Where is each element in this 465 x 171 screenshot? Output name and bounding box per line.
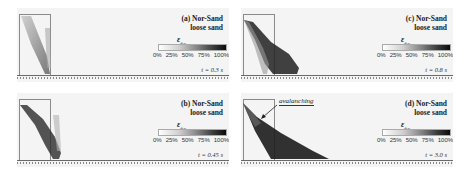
colorbar-ticks: 0% 25% 50% 75% 100% bbox=[153, 52, 229, 58]
tick-0: 0% bbox=[377, 137, 386, 143]
floor-hatch bbox=[17, 77, 229, 79]
tick-0: 0% bbox=[153, 52, 162, 58]
panel-title: (a) Nor-Sand loose sand bbox=[181, 14, 223, 32]
title-line2: loose sand bbox=[406, 23, 447, 32]
floor-line bbox=[241, 160, 453, 161]
floor-hatch bbox=[241, 162, 453, 164]
panel-b: (b) Nor-Sand loose sand εdev 0% 25% 50% … bbox=[17, 93, 229, 167]
tick-100: 100% bbox=[214, 52, 229, 58]
tick-75: 75% bbox=[422, 137, 434, 143]
title-line1: (a) Nor-Sand bbox=[181, 14, 223, 23]
tick-50: 50% bbox=[406, 137, 418, 143]
tick-100: 100% bbox=[438, 52, 453, 58]
panel-d: avalanching (d) Nor-Sand loose sand εdev… bbox=[241, 93, 453, 167]
colorbar bbox=[382, 44, 451, 51]
title-line2: loose sand bbox=[405, 108, 447, 117]
tick-25: 25% bbox=[166, 52, 178, 58]
time-label: t = 0.3 s bbox=[201, 66, 223, 73]
colorbar-ticks: 0% 25% 50% 75% 100% bbox=[377, 137, 453, 143]
floor-line bbox=[17, 75, 229, 76]
tick-25: 25% bbox=[390, 137, 402, 143]
floor-hatch bbox=[241, 77, 453, 79]
annotation-arrow bbox=[263, 105, 277, 117]
time-label: t = 0.8 s bbox=[425, 66, 447, 73]
floor-line bbox=[241, 75, 453, 76]
tick-0: 0% bbox=[153, 137, 162, 143]
colorbar-ticks: 0% 25% 50% 75% 100% bbox=[153, 137, 229, 143]
tick-25: 25% bbox=[390, 52, 402, 58]
colorbar-ticks: 0% 25% 50% 75% 100% bbox=[377, 52, 453, 58]
tick-75: 75% bbox=[198, 52, 210, 58]
colorbar bbox=[158, 129, 227, 136]
tick-25: 25% bbox=[166, 137, 178, 143]
panel-c: (c) Nor-Sand loose sand εdev 0% 25% 50% … bbox=[241, 8, 453, 82]
tick-75: 75% bbox=[198, 137, 210, 143]
title-line1: (d) Nor-Sand bbox=[405, 99, 447, 108]
panel-a: (a) Nor-Sand loose sand εdev 0% 25% 50% … bbox=[17, 8, 229, 82]
panel-title: (d) Nor-Sand loose sand bbox=[405, 99, 447, 117]
title-line2: loose sand bbox=[181, 23, 223, 32]
tick-50: 50% bbox=[182, 52, 194, 58]
time-label: t = 3.0 s bbox=[425, 151, 447, 158]
tick-50: 50% bbox=[406, 52, 418, 58]
colorbar bbox=[382, 129, 451, 136]
tick-100: 100% bbox=[214, 137, 229, 143]
title-line1: (c) Nor-Sand bbox=[406, 14, 447, 23]
avalanching-annotation: avalanching bbox=[279, 97, 314, 106]
tick-50: 50% bbox=[182, 137, 194, 143]
tick-75: 75% bbox=[422, 52, 434, 58]
colorbar bbox=[158, 44, 227, 51]
title-line1: (b) Nor-Sand bbox=[181, 99, 223, 108]
title-line2: loose sand bbox=[181, 108, 223, 117]
time-label: t = 0.45 s bbox=[198, 151, 223, 158]
tick-100: 100% bbox=[438, 137, 453, 143]
tick-0: 0% bbox=[377, 52, 386, 58]
panel-title: (b) Nor-Sand loose sand bbox=[181, 99, 223, 117]
floor-line bbox=[17, 160, 229, 161]
panel-title: (c) Nor-Sand loose sand bbox=[406, 14, 447, 32]
floor-hatch bbox=[17, 162, 229, 164]
